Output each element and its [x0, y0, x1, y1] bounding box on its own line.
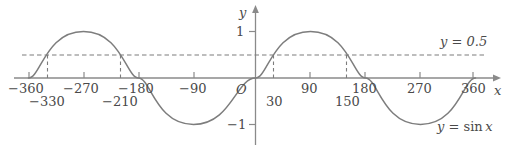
- sine-curve-label: y = sin x: [437, 120, 493, 133]
- x-tick-label-minus-90: −90: [179, 82, 206, 95]
- x-tick-label-90: 90: [301, 82, 318, 95]
- x-axis-label: x: [494, 84, 501, 97]
- y-tick-label-1: 1: [236, 25, 244, 38]
- x-solution-label-minus-330: −330: [29, 95, 65, 108]
- horizontal-line-label: y = 0.5: [440, 35, 487, 48]
- x-solution-label-30: 30: [266, 95, 283, 108]
- y-tick-label-minus-1: −1: [227, 118, 246, 131]
- y-axis-label: y: [239, 6, 246, 19]
- sine-label-eq: =: [444, 119, 463, 134]
- x-tick-label-minus-270: −270: [63, 82, 99, 95]
- sine-label-fn: sin: [464, 119, 483, 134]
- x-tick-label-270: 270: [407, 82, 432, 95]
- x-tick-label-360: 360: [461, 82, 486, 95]
- x-solution-label-minus-210: −210: [102, 95, 138, 108]
- solution-drop-lines: [48, 55, 347, 78]
- x-solution-label-150: 150: [335, 95, 360, 108]
- sine-graph-figure: y x O 1 −1 −360 −270 −180 −90 90 180 270…: [0, 0, 508, 161]
- sine-label-arg: x: [485, 119, 492, 134]
- x-axis-ticks: [29, 72, 473, 78]
- origin-label: O: [236, 83, 247, 96]
